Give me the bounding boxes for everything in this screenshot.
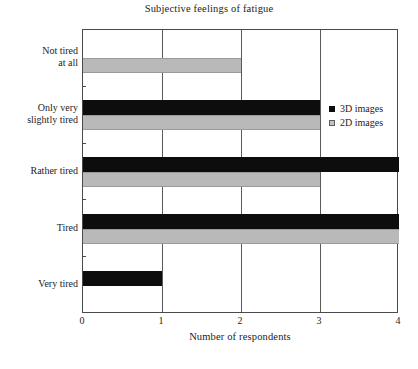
y-axis-tick <box>82 256 86 257</box>
legend-swatch-2d-icon <box>329 120 335 126</box>
chart-title: Subjective feelings of fatigue <box>0 3 418 14</box>
legend-item: 2D images <box>329 116 383 130</box>
bar-3d-empty <box>83 43 397 58</box>
y-axis-label-line: Tired <box>0 222 78 235</box>
y-axis-label: Only veryslightly tired <box>0 102 78 127</box>
x-axis-tick-label: 4 <box>388 315 408 326</box>
y-axis-label: Not tiredat all <box>0 45 78 70</box>
legend-item: 3D images <box>329 102 383 116</box>
plot-area: 3D images2D images <box>82 29 398 313</box>
x-axis-tick-labels: 01234 <box>0 315 418 329</box>
x-axis-tick-label: 3 <box>309 315 329 326</box>
legend-swatch-3d-icon <box>329 106 335 112</box>
bar-group <box>83 200 397 257</box>
y-axis-label-line: Not tired <box>0 45 78 58</box>
legend-label: 2D images <box>340 116 383 130</box>
y-axis-label-line: at all <box>0 57 78 70</box>
y-axis-tick <box>82 143 86 144</box>
y-axis-label-line: Very tired <box>0 278 78 291</box>
bar-group <box>83 30 397 87</box>
bar-3d <box>83 100 320 115</box>
y-axis-tick <box>82 86 86 87</box>
bar-2d-empty <box>83 286 397 301</box>
y-axis-label-line: Only very <box>0 102 78 115</box>
bar-rows <box>83 30 397 312</box>
bar-3d <box>83 157 399 172</box>
y-axis-tick <box>82 199 86 200</box>
scan-artifact <box>6 357 246 363</box>
bar-2d <box>83 172 320 187</box>
y-axis-labels: Not tiredat allOnly veryslightly tiredRa… <box>0 29 78 313</box>
x-axis-tick-label: 1 <box>151 315 171 326</box>
bar-group <box>83 257 397 314</box>
y-axis-label: Rather tired <box>0 165 78 178</box>
x-axis-title: Number of respondents <box>82 331 398 342</box>
bar-3d <box>83 271 162 286</box>
y-axis-label: Tired <box>0 222 78 235</box>
bar-2d <box>83 229 399 244</box>
y-axis-label-line: slightly tired <box>0 114 78 127</box>
bar-3d <box>83 214 399 229</box>
legend-label: 3D images <box>340 102 383 116</box>
x-axis-tick-label: 0 <box>72 315 92 326</box>
y-axis-label-line: Rather tired <box>0 165 78 178</box>
bar-group <box>83 144 397 201</box>
bar-2d <box>83 58 241 73</box>
bar-2d <box>83 115 320 130</box>
chart-figure: Subjective feelings of fatigue Not tired… <box>0 0 418 369</box>
legend: 3D images2D images <box>329 102 383 130</box>
y-axis-label: Very tired <box>0 278 78 291</box>
x-axis-tick-label: 2 <box>230 315 250 326</box>
